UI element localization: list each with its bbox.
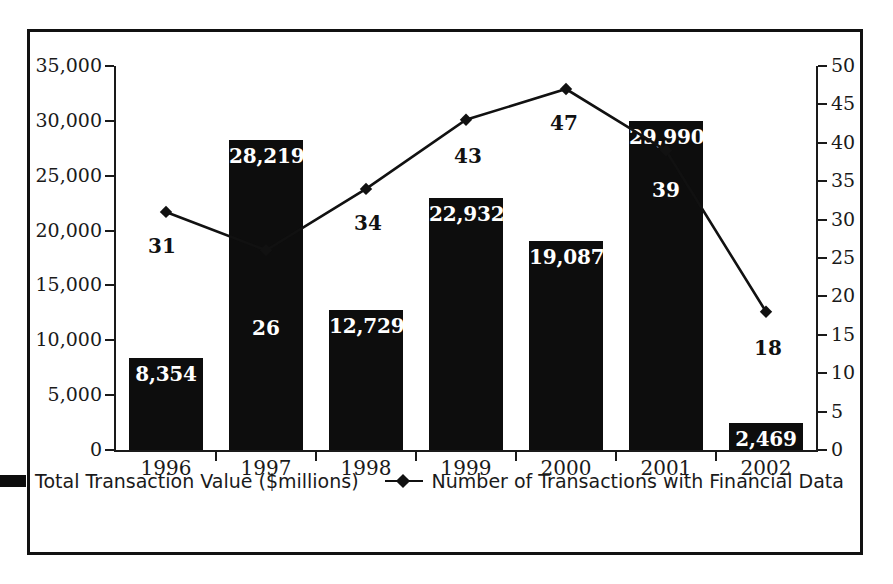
- left-axis-tick: [105, 175, 114, 177]
- line-marker-2000: [560, 83, 572, 95]
- chart-legend: Total Transaction Value ($millions) Numb…: [27, 466, 809, 496]
- legend-item-number-of-transactions: Number of Transactions with Financial Da…: [385, 470, 844, 492]
- plot-area: 05,00010,00015,00020,00025,00030,00035,0…: [116, 66, 816, 450]
- right-axis-tick-label: 30: [831, 210, 855, 229]
- left-axis-tick: [105, 339, 114, 341]
- right-axis-tick-label: 20: [831, 286, 855, 305]
- right-axis-tick: [818, 142, 827, 144]
- right-axis-tick: [818, 65, 827, 67]
- left-axis-tick-label: 10,000: [36, 330, 102, 349]
- line-marker-1997: [260, 244, 272, 256]
- left-axis-tick: [105, 230, 114, 232]
- right-axis-tick-label: 25: [831, 248, 855, 267]
- left-axis-tick-label: 25,000: [36, 166, 102, 185]
- line-series: [116, 66, 816, 451]
- line-marker-1996: [160, 206, 172, 218]
- line-diamond-swatch-icon: [385, 474, 423, 488]
- right-axis-tick: [818, 372, 827, 374]
- right-axis-tick-label: 0: [831, 440, 843, 459]
- right-axis-tick: [818, 411, 827, 413]
- line-value-label-2000: 47: [534, 113, 594, 133]
- legend-item-total-transaction-value: Total Transaction Value ($millions): [0, 470, 359, 492]
- line-value-label-1997: 26: [236, 318, 296, 338]
- left-axis-tick-label: 30,000: [36, 111, 102, 130]
- left-axis-tick: [105, 120, 114, 122]
- line-value-label-2001: 39: [636, 180, 696, 200]
- right-axis-tick: [818, 449, 827, 451]
- right-axis-tick-label: 5: [831, 402, 843, 421]
- right-axis-tick: [818, 334, 827, 336]
- right-axis-tick-label: 35: [831, 171, 855, 190]
- right-axis-tick-label: 10: [831, 363, 855, 382]
- left-axis-tick: [105, 284, 114, 286]
- line-value-label-1999: 43: [438, 146, 498, 166]
- right-axis-tick-label: 50: [831, 56, 855, 75]
- line-value-label-2002: 18: [738, 338, 798, 358]
- bar-swatch-icon: [0, 475, 26, 487]
- legend-label-total-transaction-value: Total Transaction Value ($millions): [35, 470, 358, 492]
- left-axis-tick-label: 15,000: [36, 275, 102, 294]
- left-axis-tick: [105, 394, 114, 396]
- left-axis-tick: [105, 449, 114, 451]
- right-axis-tick-label: 45: [831, 94, 855, 113]
- right-axis-tick: [818, 219, 827, 221]
- legend-label-number-of-transactions: Number of Transactions with Financial Da…: [432, 470, 844, 492]
- right-axis-tick: [818, 103, 827, 105]
- left-axis-tick-label: 20,000: [36, 221, 102, 240]
- line-marker-2002: [760, 306, 772, 318]
- right-axis-tick: [818, 257, 827, 259]
- right-axis-tick-label: 15: [831, 325, 855, 344]
- line-marker-2001: [660, 144, 672, 156]
- line-value-label-1996: 31: [132, 236, 192, 256]
- left-axis-tick-label: 35,000: [36, 56, 102, 75]
- left-axis-tick-label: 0: [90, 440, 102, 459]
- right-axis-tick-label: 40: [831, 133, 855, 152]
- left-axis-tick-label: 5,000: [48, 385, 102, 404]
- right-axis-tick: [818, 295, 827, 297]
- right-axis-tick: [818, 180, 827, 182]
- left-axis-tick: [105, 65, 114, 67]
- line-value-label-1998: 34: [338, 213, 398, 233]
